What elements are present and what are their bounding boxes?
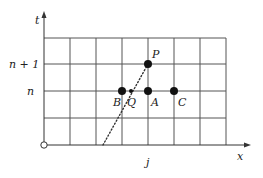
- x-tick-label-j: j: [143, 156, 150, 169]
- finite-difference-grid-diagram: P B Q A C t x j n + 1 n: [0, 0, 263, 178]
- t-axis: [42, 11, 47, 145]
- x-axis-arrow-icon: [244, 143, 251, 148]
- label-B: B: [112, 96, 121, 109]
- label-P: P: [151, 48, 160, 61]
- characteristic-dotted-line: [103, 64, 148, 145]
- label-Q: Q: [127, 96, 136, 109]
- point-B: [118, 87, 126, 95]
- t-tick-label-n: n: [27, 85, 34, 98]
- x-axis-label: x: [237, 150, 244, 163]
- origin-circle-icon: [41, 142, 47, 148]
- point-P: [144, 60, 152, 68]
- t-axis-label: t: [35, 14, 40, 27]
- label-C: C: [178, 96, 187, 109]
- point-C: [170, 87, 178, 95]
- point-A: [144, 87, 152, 95]
- t-tick-label-n-plus-1: n + 1: [9, 58, 39, 71]
- t-axis-arrow-icon: [42, 11, 47, 18]
- point-Q: [129, 89, 133, 93]
- label-A: A: [150, 96, 159, 109]
